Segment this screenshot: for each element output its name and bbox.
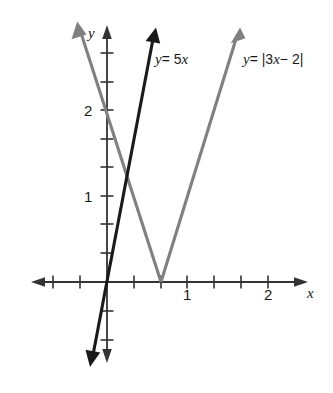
x-axis-right-arrowhead <box>294 277 308 287</box>
curve-line-5x-segment <box>93 39 153 355</box>
curve-label-abs-var: x <box>273 51 280 67</box>
x-axis-tick-label-1: 1 <box>183 287 191 302</box>
x-axis-tick-label-2: 2 <box>264 287 272 302</box>
y-axis-name-label: y <box>88 26 95 41</box>
curve-label-line-5x-lhs: y <box>155 51 162 67</box>
curve-label-abs-mid: = |3 <box>250 51 274 67</box>
curve-label-abs-lhs: y <box>243 51 250 67</box>
x-axis-name-label: x <box>307 286 314 301</box>
curve-line-5x-bottom-arrowhead <box>86 350 101 367</box>
y-axis-top-arrowhead <box>102 25 112 39</box>
y-axis-tick-label-1: 1 <box>84 189 92 204</box>
curve-label-abs-tail: − 2| <box>280 51 304 67</box>
curve-abs-right-branch <box>161 39 236 282</box>
y-axis-bottom-arrowhead <box>102 349 112 363</box>
y-axis-tick-label-2: 2 <box>84 103 92 118</box>
x-axis-left-arrowhead <box>31 277 45 287</box>
curve-line-5x-top-arrowhead <box>146 28 161 44</box>
curve-abs-left-arrowhead <box>72 22 87 40</box>
curve-abs-left-branch <box>81 33 161 282</box>
curve-label-line-5x: y= 5x <box>155 52 188 67</box>
curve-label-line-5x-rhs: = 5 <box>162 51 182 67</box>
curve-abs-right-arrowhead <box>231 28 246 44</box>
graph-figure: 2 1 1 2 y x y= 5x y= |3x− 2| <box>0 0 333 393</box>
curve-label-abs-3x-minus-2: y= |3x− 2| <box>243 52 303 67</box>
curve-label-line-5x-var: x <box>182 51 189 67</box>
